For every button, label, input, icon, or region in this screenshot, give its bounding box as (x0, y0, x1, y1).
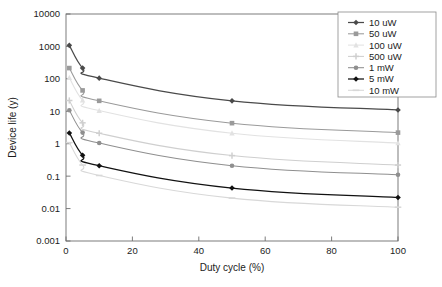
data-point (230, 163, 235, 168)
x-tick-label: 0 (63, 245, 68, 256)
chart-container: 1000010001001010.10.010.001 020406080100… (0, 0, 442, 287)
data-point (229, 98, 235, 104)
legend-label: 10 uW (369, 17, 396, 28)
data-point (67, 66, 72, 71)
data-point (396, 173, 401, 178)
data-point (67, 75, 72, 80)
y-tick-label: 10000 (34, 8, 60, 19)
data-point (229, 153, 235, 159)
y-tick-labels: 1000010001001010.10.010.001 (34, 8, 60, 246)
x-tick-label: 80 (326, 245, 337, 256)
x-tick-labels: 020406080100 (63, 245, 406, 256)
x-tick-label: 40 (194, 245, 205, 256)
y-tick-label: 100 (44, 73, 60, 84)
y-tick-label: 10 (49, 106, 60, 117)
series-10-mw (66, 143, 401, 208)
series-1-mw (67, 108, 400, 177)
data-point (66, 97, 72, 103)
data-point (67, 43, 73, 49)
legend-marker (354, 65, 359, 70)
data-point (67, 108, 72, 113)
data-point (396, 130, 401, 135)
legend-label: 1 mW (369, 62, 394, 73)
x-tick-label: 100 (390, 245, 406, 256)
data-point (230, 121, 235, 126)
data-point (96, 75, 102, 81)
legend-label: 10 mW (369, 85, 399, 96)
data-point (80, 88, 85, 93)
x-tick-label: 20 (127, 245, 138, 256)
legend-marker (354, 32, 359, 37)
legend-label: 100 uW (369, 40, 402, 51)
legend-label: 50 uW (369, 28, 396, 39)
data-point (96, 163, 102, 169)
data-point (229, 185, 235, 191)
data-point (97, 99, 102, 104)
legend: 10 uW50 uW100 uW500 uW1 mW5 mW10 mW (338, 12, 436, 97)
y-axis-title: Device life (y) (7, 97, 18, 158)
y-tick-label: 0.01 (42, 203, 61, 214)
data-point (395, 162, 401, 168)
data-point (395, 107, 401, 113)
data-point (67, 130, 73, 136)
data-point (80, 130, 85, 135)
legend-label: 500 uW (369, 51, 402, 62)
y-tick-label: 0.1 (47, 171, 60, 182)
legend-label: 5 mW (369, 73, 394, 84)
y-tick-label: 1 (55, 138, 60, 149)
x-axis-title: Duty cycle (%) (200, 262, 264, 273)
x-tick-label: 60 (260, 245, 271, 256)
y-tick-label: 1000 (39, 41, 60, 52)
data-point (97, 141, 102, 146)
line-chart: 1000010001001010.10.010.001 020406080100… (0, 0, 442, 287)
data-point (96, 130, 102, 136)
data-point (395, 195, 401, 201)
y-tick-label: 0.001 (36, 235, 60, 246)
